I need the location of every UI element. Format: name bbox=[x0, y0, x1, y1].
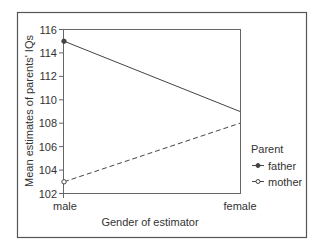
y-axis-label: Mean estimates of parents' IQs bbox=[23, 35, 35, 187]
legend-mother-marker bbox=[256, 180, 260, 184]
y-tick-label: 110 bbox=[39, 94, 57, 106]
y-tick-label: 114 bbox=[39, 47, 57, 59]
y-tick-label: 104 bbox=[39, 164, 57, 176]
y-tick-label: 108 bbox=[39, 117, 57, 129]
chart-canvas: 102 104 106 108 110 112 114 116 Mean est… bbox=[0, 0, 318, 250]
y-tick-label: 112 bbox=[39, 70, 57, 82]
x-axis-label: Gender of estimator bbox=[101, 216, 199, 228]
y-tick-label: 106 bbox=[39, 141, 57, 153]
legend-mother-label: mother bbox=[268, 176, 303, 188]
y-tick-label: 102 bbox=[39, 188, 57, 200]
x-tick-label-male: male bbox=[53, 200, 77, 212]
y-tick-label: 116 bbox=[39, 24, 57, 36]
data-point bbox=[62, 180, 66, 184]
legend-title: Parent bbox=[251, 143, 283, 155]
legend-father-label: father bbox=[268, 160, 296, 172]
x-tick-label-female: female bbox=[223, 200, 256, 212]
data-point bbox=[62, 39, 66, 43]
legend-father-marker bbox=[256, 164, 260, 168]
